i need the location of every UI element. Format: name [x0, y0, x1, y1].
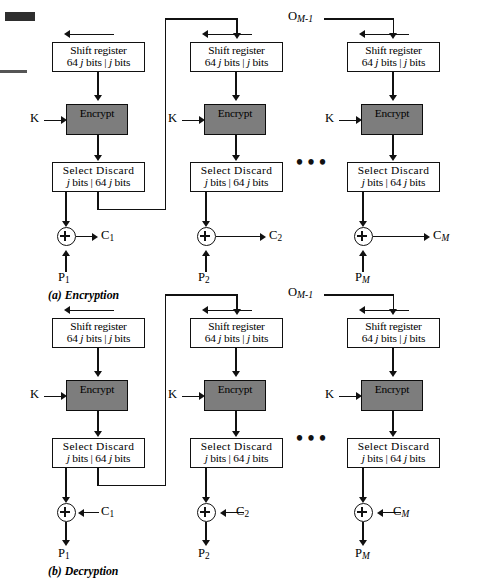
des-encrypt-box-1-dec: Encrypt [66, 380, 128, 411]
ciphertext-label-M-enc: CM [433, 228, 449, 243]
shift-left-arrowhead-1-dec [64, 306, 70, 314]
sr-to-des-arrow-2-dec [232, 371, 240, 377]
select-discard-box-1-enc: Select Discard j bits | 64 j bits [52, 162, 145, 192]
p-to-xor-arrow-1-enc [62, 250, 70, 256]
shift-register-label-1-enc: Shift register [53, 45, 144, 57]
sr-to-des-arrow-M-enc [389, 95, 397, 101]
des-encrypt-label-M-enc: Encrypt [362, 108, 422, 120]
des-encrypt-label-2-dec: Encrypt [205, 384, 265, 396]
shift-register-bits-1-enc: 64 j bits | j bits [53, 57, 144, 69]
sel-to-xor-line-2-enc [205, 192, 207, 223]
plaintext-label-1-enc: P1 [58, 270, 70, 285]
des-to-sel-arrow-2-dec [232, 431, 240, 437]
feedback-wire-M-horizontal-enc [324, 18, 394, 20]
des-to-sel-line-2-enc [235, 135, 237, 157]
sr-to-des-arrow-2-enc [232, 95, 240, 101]
shift-register-box-1-dec: Shift register 64 j bits | j bits [52, 318, 145, 348]
xor-to-c-arrow-2-enc [260, 233, 266, 241]
key-label-1-enc: K [30, 111, 39, 126]
p-to-xor-arrow-M-enc [359, 250, 367, 256]
des-encrypt-box-2-enc: Encrypt [204, 104, 266, 135]
key-line-1-dec [44, 396, 62, 398]
select-bits-1-dec: j bits | 64 j bits [53, 453, 144, 465]
sel-to-xor-line-1-enc [65, 192, 67, 223]
sel-to-xor-line-2-dec [205, 468, 207, 499]
shift-register-box-M-enc: Shift register 64 j bits | j bits [347, 42, 440, 72]
scan-artifact-line [0, 70, 27, 73]
xor-to-c-line-1-enc [76, 236, 94, 238]
feedback-wire-1-top [165, 18, 238, 20]
plaintext-label-2-enc: P2 [198, 270, 210, 285]
des-encrypt-label-1-enc: Encrypt [67, 108, 127, 120]
des-to-sel-line-1-dec [97, 411, 99, 433]
select-bits-1-enc: j bits | 64 j bits [53, 177, 144, 189]
shift-register-bits-2-enc: 64 j bits | j bits [191, 57, 282, 69]
feedback-wire-1-riser [165, 18, 167, 209]
key-line-M-enc [339, 120, 357, 122]
des-encrypt-box-1-enc: Encrypt [66, 104, 128, 135]
xor-to-c-line-M-enc [373, 236, 426, 238]
shift-left-arrow-line-2-dec [208, 310, 252, 312]
select-bits-2-enc: j bits | 64 j bits [191, 177, 282, 189]
feedback-wire-1-vertical-out-dec [97, 468, 99, 486]
sr-to-des-line-2-enc [235, 72, 237, 97]
des-encrypt-box-M-dec: Encrypt [361, 380, 423, 411]
sr-to-des-arrow-1-dec [94, 371, 102, 377]
select-bits-M-enc: j bits | 64 j bits [348, 177, 439, 189]
scan-artifact-top [5, 12, 35, 21]
sr-to-des-line-M-dec [392, 348, 394, 373]
stage-ellipsis-enc: ••• [296, 152, 331, 172]
sr-to-des-arrow-M-dec [389, 371, 397, 377]
sr-to-des-line-1-dec [97, 348, 99, 373]
shift-register-label-2-dec: Shift register [191, 321, 282, 333]
shift-register-box-2-enc: Shift register 64 j bits | j bits [190, 42, 283, 72]
p-to-xor-arrow-2-enc [202, 250, 210, 256]
des-to-sel-line-2-dec [235, 411, 237, 433]
feedback-wire-1-top-dec [165, 294, 238, 296]
c-to-xor-arrow-2-dec [220, 509, 226, 517]
shift-register-bits-M-enc: 64 j bits | j bits [348, 57, 439, 69]
sel-to-xor-line-M-enc [362, 192, 364, 223]
xor-gate-M-enc [354, 227, 373, 246]
xor-to-p-line-M-dec [362, 522, 364, 542]
xor-to-c-arrow-1-enc [92, 233, 98, 241]
xor-to-c-arrow-M-enc [424, 233, 430, 241]
key-label-2-enc: K [168, 111, 177, 126]
shift-left-arrowhead-2-enc [202, 30, 208, 38]
des-to-sel-line-M-dec [392, 411, 394, 433]
key-label-M-dec: K [325, 387, 334, 402]
xor-to-c-line-2-enc [216, 236, 262, 238]
key-line-M-dec [339, 396, 357, 398]
des-encrypt-box-2-dec: Encrypt [204, 380, 266, 411]
stage-ellipsis-dec: ••• [296, 428, 331, 448]
ciphertext-label-1-dec: C1 [101, 504, 114, 519]
shift-left-arrow-line-2-enc [208, 34, 252, 36]
shift-left-arrow-line-1-enc [70, 34, 114, 36]
des-to-sel-arrow-1-dec [94, 431, 102, 437]
xor-gate-1-enc [57, 227, 76, 246]
shift-left-arrowhead-2-dec [202, 306, 208, 314]
shift-register-box-M-dec: Shift register 64 j bits | j bits [347, 318, 440, 348]
decryption-caption: (b) Decryption [48, 564, 118, 579]
sr-to-des-arrow-1-enc [94, 95, 102, 101]
plaintext-label-M-dec: PM [355, 546, 370, 561]
xor-gate-1-dec [57, 503, 76, 522]
xor-gate-M-dec [354, 503, 373, 522]
des-to-sel-line-1-enc [97, 135, 99, 157]
select-bits-2-dec: j bits | 64 j bits [191, 453, 282, 465]
shift-register-bits-2-dec: 64 j bits | j bits [191, 333, 282, 345]
c-to-xor-arrow-M-dec [377, 509, 383, 517]
key-line-2-enc [182, 120, 200, 122]
feedback-wire-1-horizontal [97, 209, 166, 211]
shift-register-box-1-enc: Shift register 64 j bits | j bits [52, 42, 145, 72]
shift-left-arrow-line-1-dec [70, 310, 114, 312]
xor-gate-2-dec [197, 503, 216, 522]
shift-left-arrowhead-1-enc [64, 30, 70, 38]
plaintext-label-2-dec: P2 [198, 546, 210, 561]
sel-to-xor-line-1-dec [65, 468, 67, 499]
des-to-sel-arrow-M-enc [389, 155, 397, 161]
shift-register-label-1-dec: Shift register [53, 321, 144, 333]
des-to-sel-arrow-M-dec [389, 431, 397, 437]
select-bits-M-dec: j bits | 64 j bits [348, 453, 439, 465]
shift-left-arrowhead-M-dec [359, 306, 365, 314]
